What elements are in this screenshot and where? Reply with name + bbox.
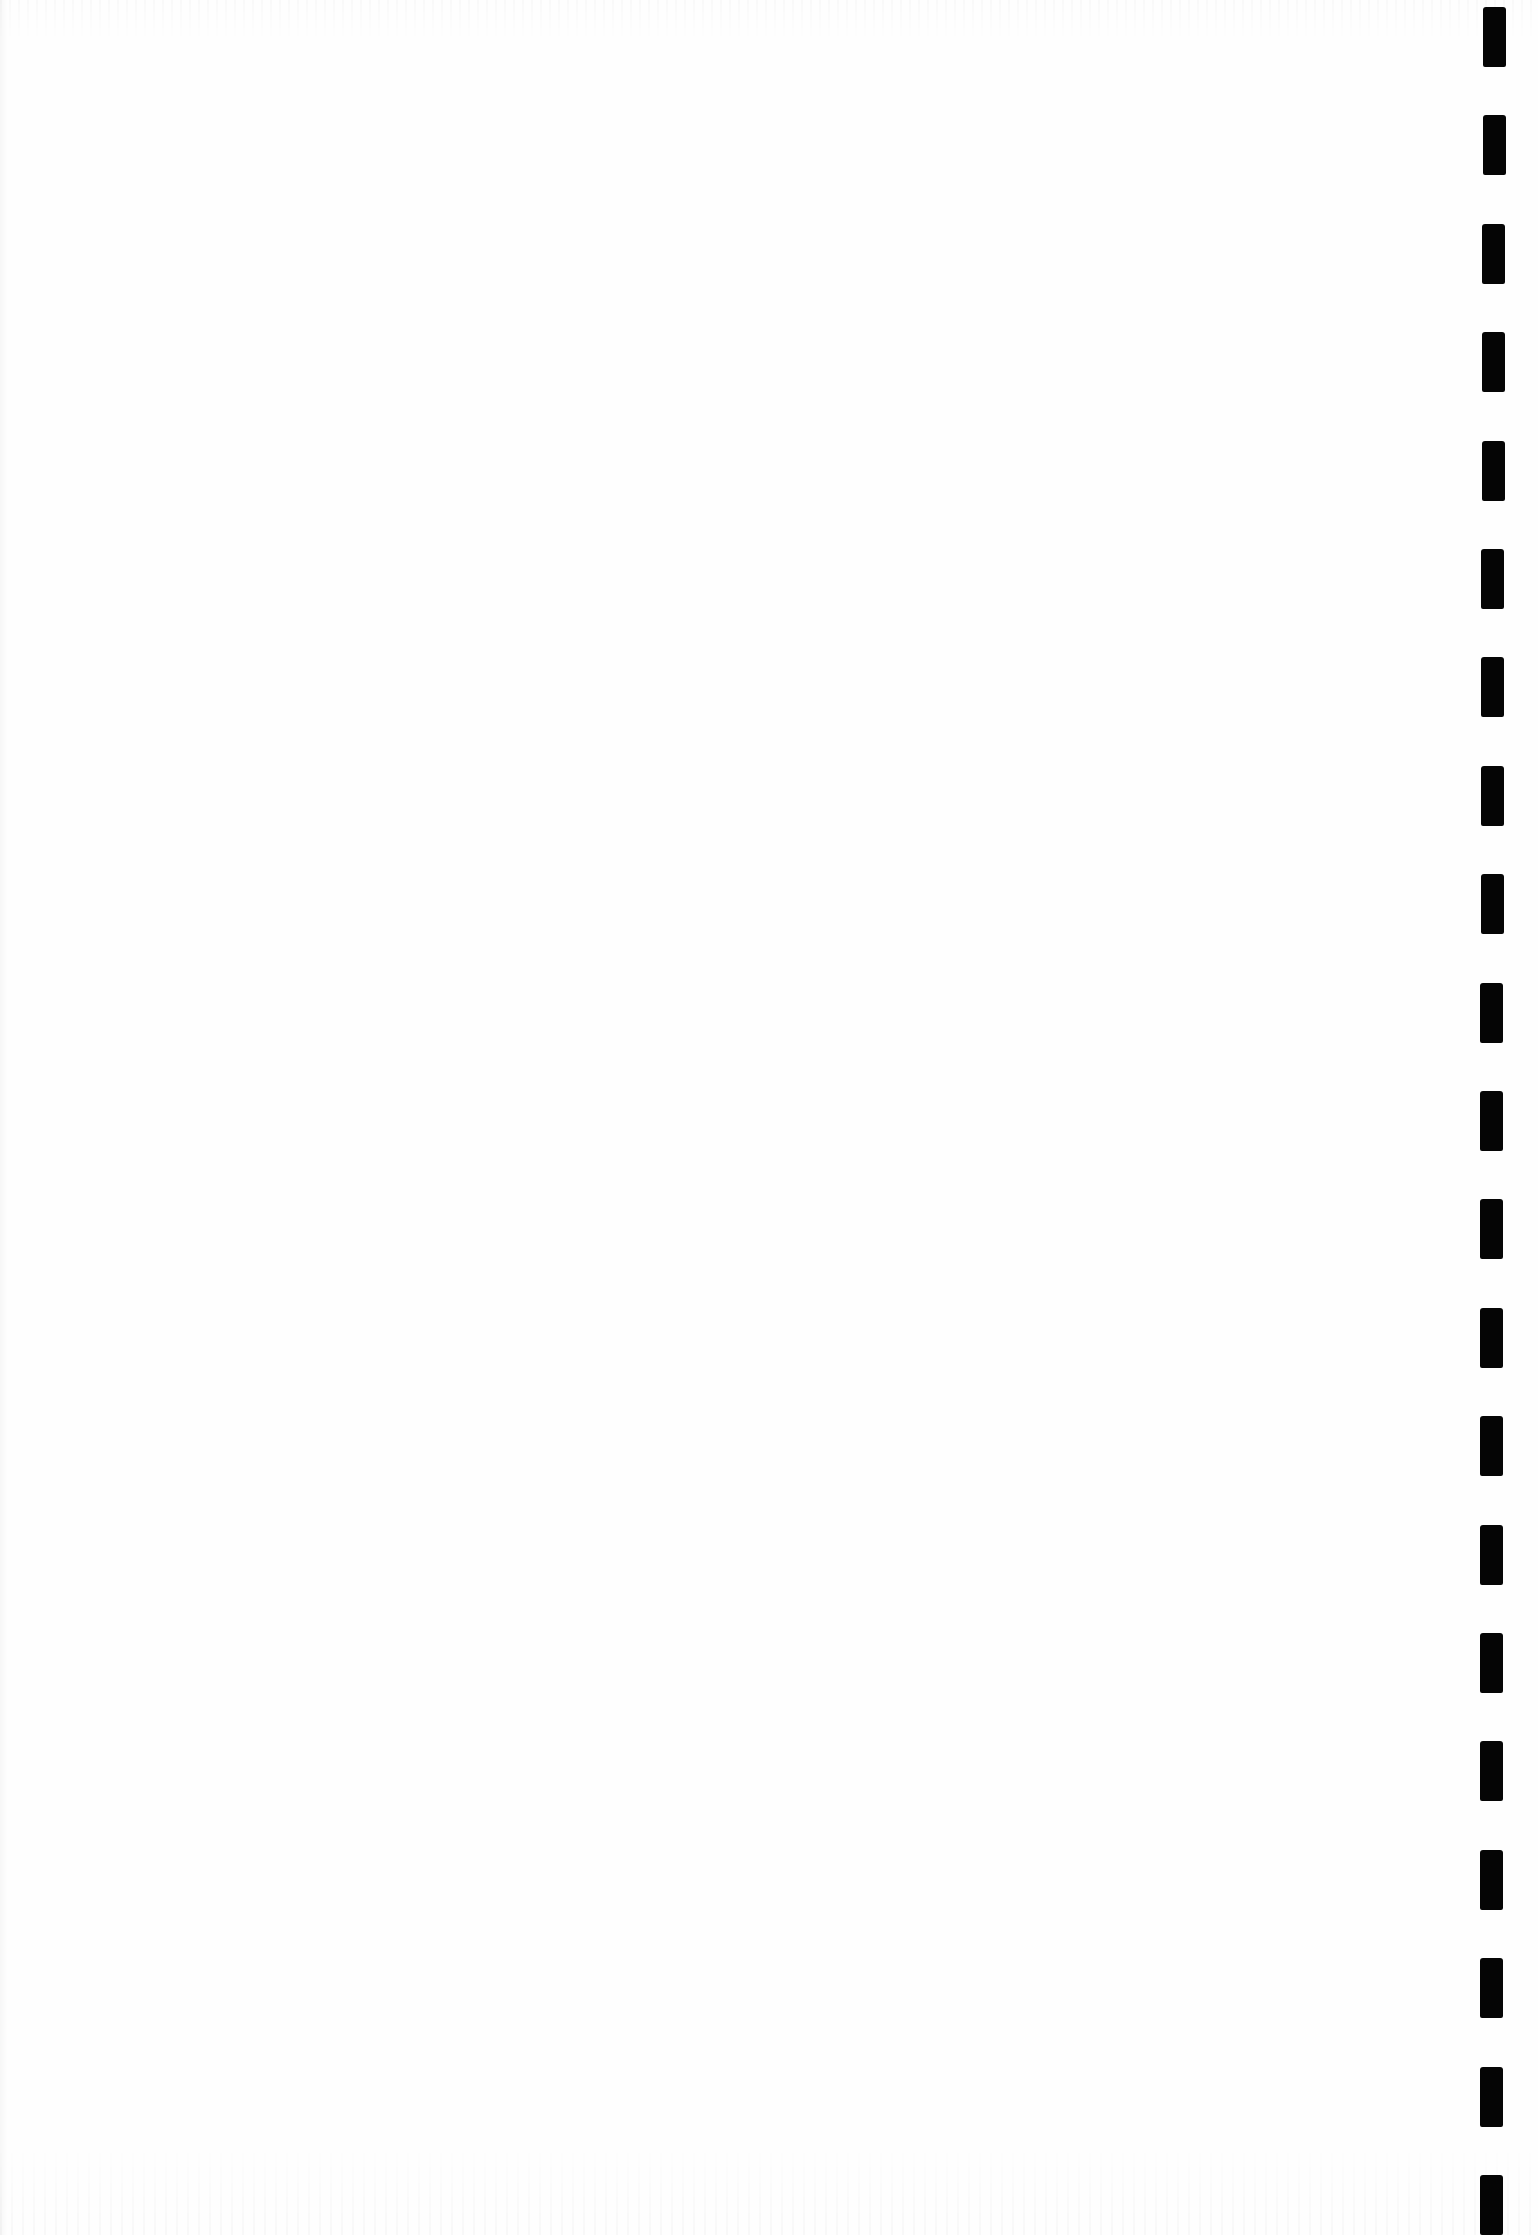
dash-segment — [1480, 1850, 1503, 1910]
dash-segment — [1480, 1958, 1503, 2018]
dash-segment — [1480, 1308, 1503, 1368]
dash-segment — [1482, 224, 1505, 284]
dashed-cut-line — [1481, 0, 1504, 2235]
dash-segment — [1481, 549, 1504, 609]
dash-segment — [1480, 1416, 1503, 1476]
dash-segment — [1481, 874, 1504, 934]
dash-segment — [1482, 441, 1505, 501]
scan-shadow-left — [0, 0, 8, 2235]
blank-page — [0, 0, 1538, 2235]
dash-segment — [1480, 1091, 1503, 1151]
dash-segment — [1480, 1525, 1503, 1585]
dash-segment — [1483, 7, 1506, 67]
dash-segment — [1481, 657, 1504, 717]
scan-streaks-bottom — [0, 2145, 1538, 2235]
dash-segment — [1480, 983, 1503, 1043]
dash-segment — [1480, 1199, 1503, 1259]
dash-segment — [1480, 1741, 1503, 1801]
dash-segment — [1483, 115, 1506, 175]
dash-segment — [1480, 1633, 1503, 1693]
dash-segment — [1481, 766, 1504, 826]
dash-segment — [1480, 2067, 1503, 2127]
dash-segment — [1482, 332, 1505, 392]
dash-segment — [1480, 2175, 1503, 2235]
scan-streaks-top — [0, 0, 1538, 40]
